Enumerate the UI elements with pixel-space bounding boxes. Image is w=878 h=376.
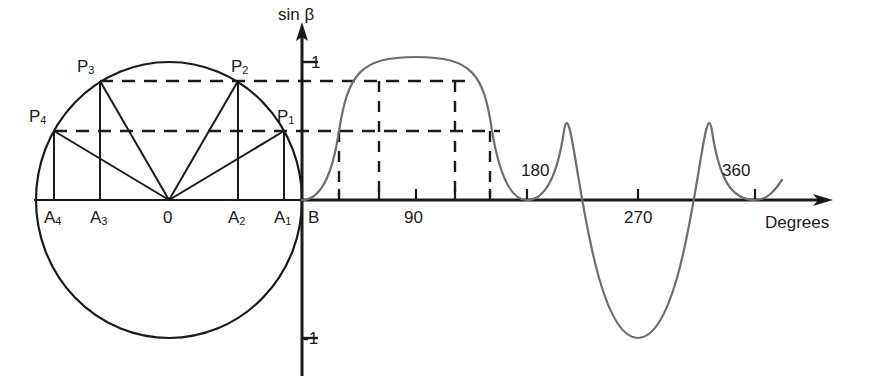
radius-to-p2 xyxy=(169,81,238,200)
label-a1: A1 xyxy=(274,209,291,227)
label-a1-text: A xyxy=(274,208,285,227)
y-axis-label: sin β xyxy=(278,6,314,23)
sine-curve-figure: sin β Degrees 1 -1 90 180 270 360 A4 A3 … xyxy=(0,0,878,376)
label-b: B xyxy=(308,209,319,226)
x-tick-label-270: 270 xyxy=(624,209,652,226)
label-a1-subscript: 1 xyxy=(285,215,291,227)
label-a4: A4 xyxy=(44,209,61,227)
x-tick-label-90: 90 xyxy=(404,209,423,226)
label-p1: P1 xyxy=(277,108,294,126)
label-p4: P4 xyxy=(29,108,46,126)
radius-to-p4 xyxy=(54,131,169,200)
label-p4-subscript: 4 xyxy=(40,114,46,126)
label-p2: P2 xyxy=(231,58,248,76)
sine-curve xyxy=(302,57,782,338)
label-p1-text: P xyxy=(277,107,288,126)
y-tick-label-minus-one: -1 xyxy=(303,330,318,347)
label-a2-text: A xyxy=(228,208,239,227)
label-p2-subscript: 2 xyxy=(242,64,248,76)
label-p3-text: P xyxy=(77,57,88,76)
radius-to-p1 xyxy=(169,131,284,200)
x-tick-label-180: 180 xyxy=(521,162,549,179)
label-origin-zero: 0 xyxy=(163,209,172,226)
label-a3: A3 xyxy=(90,209,107,227)
label-a4-text: A xyxy=(44,208,55,227)
label-p2-text: P xyxy=(231,57,242,76)
radius-to-p3 xyxy=(100,81,169,200)
label-p3: P3 xyxy=(77,58,94,76)
label-p3-subscript: 3 xyxy=(88,64,94,76)
figure-canvas xyxy=(0,0,878,376)
label-a2-subscript: 2 xyxy=(239,215,245,227)
y-tick-label-one: 1 xyxy=(311,54,320,71)
label-a2: A2 xyxy=(228,209,245,227)
x-tick-label-360: 360 xyxy=(722,162,750,179)
label-a4-subscript: 4 xyxy=(55,215,61,227)
label-p4-text: P xyxy=(29,107,40,126)
label-p1-subscript: 1 xyxy=(288,114,294,126)
x-axis-label: Degrees xyxy=(765,214,829,231)
label-a3-text: A xyxy=(90,208,101,227)
label-a3-subscript: 3 xyxy=(101,215,107,227)
